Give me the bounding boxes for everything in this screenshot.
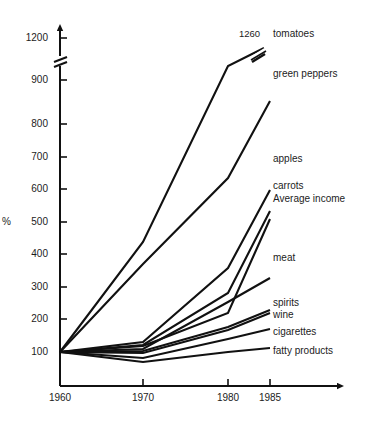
series-label-apples: apples	[273, 153, 302, 164]
series-label-carrots: carrots	[273, 180, 304, 191]
y-axis	[54, 30, 67, 386]
x-tick-1970: 1970	[123, 392, 163, 403]
x-tick-1985: 1985	[250, 392, 290, 403]
x-axis-ticks	[143, 379, 270, 386]
y-tick-500: 500	[14, 216, 48, 227]
y-tick-700: 700	[14, 151, 48, 162]
x-axis	[60, 379, 338, 386]
y-tick-900: 900	[14, 74, 48, 85]
y-tick-100: 100	[14, 346, 48, 357]
y-tick-800: 800	[14, 118, 48, 129]
y-tick-400: 400	[14, 248, 48, 259]
x-tick-1980: 1980	[208, 392, 248, 403]
y-tick-300: 300	[14, 281, 48, 292]
series-label-average-income: Average income	[273, 193, 345, 204]
y-tick-600: 600	[14, 183, 48, 194]
chart-canvas	[0, 0, 372, 429]
line-chart: 1200 900 800 700 600 500 400 300 200 100…	[0, 0, 372, 429]
tomatoes-value-annotation: 1260	[239, 28, 260, 39]
series-line-cigarettes	[60, 329, 270, 358]
series-label-fatty-products: fatty products	[273, 345, 333, 356]
y-axis-break-marker	[54, 56, 67, 67]
y-tick-1200: 1200	[14, 32, 48, 43]
series-label-cigarettes: cigarettes	[273, 326, 316, 337]
series-label-spirits: spirits	[273, 297, 299, 308]
series-label-wine: wine	[273, 309, 294, 320]
series-line-carrots	[60, 211, 270, 352]
page-bottom-cropped-text	[0, 414, 372, 429]
series-label-meat: meat	[273, 252, 295, 263]
y-axis-ticks	[60, 38, 67, 352]
series-label-tomatoes: tomatoes	[273, 28, 314, 39]
x-tick-1960: 1960	[40, 392, 80, 403]
y-axis-unit-label: %	[2, 216, 11, 227]
series-line-tomatoes	[60, 48, 264, 352]
series-label-green-peppers: green peppers	[273, 68, 338, 79]
series-lines	[60, 48, 270, 362]
series-line-green-peppers	[60, 101, 270, 352]
y-tick-200: 200	[14, 313, 48, 324]
